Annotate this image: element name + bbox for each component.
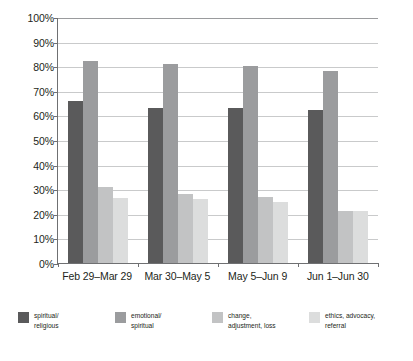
bar [148, 108, 163, 263]
bar-chart: 0%10%20%30%40%50%60%70%80%90%100% Feb 29… [0, 0, 413, 361]
legend-label: ethics, advocacy, referral [325, 311, 375, 330]
y-tick-mark [54, 215, 58, 216]
y-axis-tick-label: 90% [33, 37, 54, 49]
y-axis-tick-label: 0% [39, 258, 54, 270]
y-axis-tick-label: 70% [33, 86, 54, 98]
y-tick-mark [54, 190, 58, 191]
bar [353, 211, 368, 263]
y-axis-tick-label: 40% [33, 160, 54, 172]
y-axis-tick-label: 10% [33, 233, 54, 245]
legend-item[interactable]: change, adjustment, loss [212, 311, 309, 330]
legend-label: emotional/ spiritual [131, 311, 161, 330]
y-axis-tick-label: 30% [33, 184, 54, 196]
plot-wrapper: 0%10%20%30%40%50%60%70%80%90%100% Feb 29… [0, 0, 413, 300]
y-axis-tick-label: 50% [33, 135, 54, 147]
x-tick-mark [378, 263, 379, 267]
x-axis-tick-label: Jun 1–Jun 30 [298, 270, 378, 282]
plot-area [57, 18, 378, 264]
bar-group [298, 18, 378, 263]
legend-label: change, adjustment, loss [228, 311, 276, 330]
y-axis: 0%10%20%30%40%50%60%70%80%90%100% [10, 18, 54, 264]
bar [243, 66, 258, 263]
y-tick-mark [54, 239, 58, 240]
legend-item[interactable]: spiritual/ religious [18, 311, 115, 330]
y-tick-mark [54, 43, 58, 44]
legend-swatch-icon [309, 312, 320, 323]
bar [258, 197, 273, 263]
y-tick-mark [54, 18, 58, 19]
bar [193, 199, 208, 263]
y-axis-tick-label: 100% [28, 12, 54, 24]
y-axis-tick-label: 20% [33, 209, 54, 221]
bar [323, 71, 338, 263]
chart-legend: spiritual/ religiousemotional/ spiritual… [18, 311, 406, 330]
y-tick-mark [54, 92, 58, 93]
bar-group [218, 18, 298, 263]
bar-groups [58, 18, 378, 263]
bar [113, 198, 128, 263]
legend-label: spiritual/ religious [34, 311, 59, 330]
y-axis-tick-label: 80% [33, 61, 54, 73]
x-tick-mark [218, 263, 219, 267]
legend-swatch-icon [212, 312, 223, 323]
bar [83, 61, 98, 263]
x-axis-tick-label: Feb 29–Mar 29 [57, 270, 137, 282]
bar [98, 187, 113, 263]
bar [163, 64, 178, 263]
bar [68, 101, 83, 263]
x-axis-tick-label: Mar 30–May 5 [137, 270, 217, 282]
y-tick-mark [54, 116, 58, 117]
bar [338, 211, 353, 263]
bar [308, 110, 323, 263]
bar-group [138, 18, 218, 263]
legend-item[interactable]: ethics, advocacy, referral [309, 311, 406, 330]
bar [228, 108, 243, 263]
x-tick-mark [298, 263, 299, 267]
x-tick-mark [58, 263, 59, 267]
y-tick-mark [54, 264, 58, 265]
y-tick-mark [54, 166, 58, 167]
y-axis-tick-label: 60% [33, 110, 54, 122]
legend-swatch-icon [18, 312, 29, 323]
x-axis-labels: Feb 29–Mar 29Mar 30–May 5May 5–Jun 9Jun … [57, 270, 378, 282]
y-tick-mark [54, 141, 58, 142]
bar [178, 194, 193, 263]
x-tick-mark [138, 263, 139, 267]
x-axis-tick-label: May 5–Jun 9 [218, 270, 298, 282]
legend-swatch-icon [115, 312, 126, 323]
bar [273, 202, 288, 264]
y-tick-mark [54, 67, 58, 68]
legend-item[interactable]: emotional/ spiritual [115, 311, 212, 330]
bar-group [58, 18, 138, 263]
